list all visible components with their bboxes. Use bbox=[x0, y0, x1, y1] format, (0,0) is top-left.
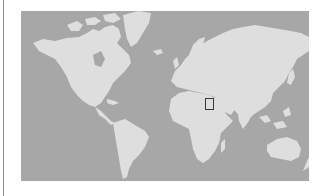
highlight-region-box bbox=[205, 98, 214, 110]
central-america bbox=[95, 107, 115, 125]
british-isles bbox=[173, 57, 179, 69]
new-zealand bbox=[303, 157, 309, 171]
southeast-asia-islands bbox=[259, 107, 291, 129]
iceland bbox=[153, 49, 163, 55]
madagascar bbox=[221, 139, 225, 153]
world-map-graphic bbox=[21, 11, 309, 181]
continent-australia bbox=[267, 137, 301, 161]
continent-south-america bbox=[113, 119, 149, 179]
caribbean-islands bbox=[107, 99, 119, 105]
left-border-line bbox=[3, 0, 4, 196]
greenland bbox=[123, 11, 151, 47]
continent-north-america bbox=[33, 25, 131, 107]
world-map bbox=[21, 11, 309, 181]
